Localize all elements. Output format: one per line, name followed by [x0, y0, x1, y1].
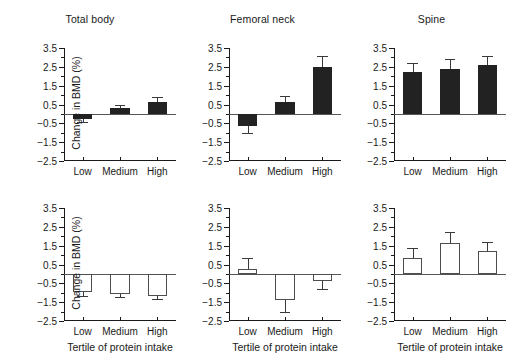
x-axis-tick: [83, 157, 84, 161]
y-axis-tick: [389, 67, 394, 68]
panel-femoral-neck-top: Femoral neck 3.52.51.50.5−0.5−1.5−2.5Low…: [180, 0, 345, 182]
y-axis-tick: [224, 48, 229, 49]
error-bar-cap-low: [242, 133, 252, 134]
error-bar-cap-medium: [115, 105, 125, 106]
error-bar-low: [248, 126, 249, 133]
y-axis-tick: [59, 105, 64, 106]
y-axis-tick: [389, 48, 394, 49]
plot-area: 3.52.51.50.5−0.5−1.5−2.5LowMediumHigh: [229, 48, 341, 161]
y-axis: [229, 48, 230, 161]
x-axis-tick: [285, 157, 286, 161]
x-axis-tick: [157, 317, 158, 321]
y-axis-tick-label: 3.5: [373, 203, 387, 214]
y-axis-tick: [224, 283, 229, 284]
error-bar-high: [322, 56, 323, 67]
plot-area: 3.52.51.50.5−0.5−1.5−2.5LowMediumHighTer…: [229, 208, 341, 321]
y-axis-tick-label: 2.5: [373, 221, 387, 232]
y-axis-minor-tick: [391, 312, 394, 313]
y-axis: [394, 208, 395, 321]
x-axis-tick: [487, 317, 488, 321]
y-axis-tick-label: −0.5: [367, 278, 387, 289]
y-axis-tick: [389, 302, 394, 303]
panel-spine-top: Spine 3.52.51.50.5−0.5−1.5−2.5LowMediumH…: [345, 0, 518, 182]
error-bar-cap-medium: [280, 312, 290, 313]
panel-total-body-bottom: 3.52.51.50.5−0.5−1.5−2.5LowMediumHighCha…: [0, 182, 180, 364]
bar-low: [403, 72, 422, 113]
x-axis-tick: [248, 157, 249, 161]
y-axis-tick: [389, 321, 394, 322]
x-axis-tick-label-high: High: [312, 326, 333, 337]
y-axis-minor-tick: [61, 114, 64, 115]
bar-high: [478, 251, 497, 274]
y-axis-tick-label: 0.5: [43, 259, 57, 270]
bar-medium: [440, 243, 459, 274]
error-bar-cap-high: [317, 56, 327, 57]
y-axis-tick: [389, 142, 394, 143]
y-axis-tick-label: 0.5: [208, 99, 222, 110]
y-axis-tick-label: 3.5: [208, 203, 222, 214]
y-axis-tick: [224, 86, 229, 87]
plot-area: 3.52.51.50.5−0.5−1.5−2.5LowMediumHigh: [394, 48, 506, 161]
panel-row-bottom: 3.52.51.50.5−0.5−1.5−2.5LowMediumHighCha…: [0, 182, 518, 364]
y-axis-tick: [59, 123, 64, 124]
y-axis-tick-label: −1.5: [367, 297, 387, 308]
x-axis-tick: [413, 157, 414, 161]
bar-high: [478, 65, 497, 114]
y-axis: [229, 208, 230, 321]
y-axis-tick-label: −0.5: [367, 118, 387, 129]
y-axis-tick: [389, 208, 394, 209]
x-axis-tick: [322, 317, 323, 321]
plot-area: 3.52.51.50.5−0.5−1.5−2.5LowMediumHighCha…: [64, 208, 176, 321]
bar-medium: [440, 69, 459, 114]
y-axis-tick-label: −1.5: [37, 137, 57, 148]
y-axis-minor-tick: [226, 255, 229, 256]
y-axis-tick-label: 1.5: [373, 80, 387, 91]
x-axis-tick: [487, 157, 488, 161]
y-axis-tick-label: −1.5: [367, 137, 387, 148]
y-axis-tick: [224, 321, 229, 322]
y-axis-minor-tick: [391, 114, 394, 115]
x-axis-tick-label-high: High: [147, 166, 168, 177]
y-axis-tick-label: −0.5: [202, 278, 222, 289]
bar-medium: [110, 108, 129, 114]
y-axis-minor-tick: [61, 95, 64, 96]
y-axis-minor-tick: [226, 114, 229, 115]
error-bar-cap-high: [482, 56, 492, 57]
bar-high: [148, 274, 167, 296]
y-axis-tick-label: 3.5: [43, 203, 57, 214]
y-axis-minor-tick: [391, 217, 394, 218]
y-axis-minor-tick: [391, 57, 394, 58]
x-axis-tick-label-medium: Medium: [267, 326, 303, 337]
y-axis-minor-tick: [226, 57, 229, 58]
y-axis-tick: [59, 265, 64, 266]
error-bar-medium: [450, 59, 451, 68]
y-axis-tick-label: −0.5: [37, 118, 57, 129]
x-axis-tick: [120, 317, 121, 321]
y-axis-tick-label: 2.5: [43, 61, 57, 72]
y-axis: [64, 48, 65, 161]
y-axis-minor-tick: [61, 312, 64, 313]
y-axis-tick-label: −2.5: [202, 156, 222, 167]
y-axis-minor-tick: [226, 217, 229, 218]
y-axis-tick: [224, 67, 229, 68]
bar-high: [313, 67, 332, 114]
error-bar-cap-low: [407, 63, 417, 64]
x-axis-tick-label-high: High: [477, 326, 498, 337]
x-axis-title: Tertile of protein intake: [380, 341, 518, 353]
y-axis-tick: [224, 208, 229, 209]
y-axis-tick-label: 1.5: [43, 80, 57, 91]
y-axis-title: Change in BMD (%): [70, 43, 82, 163]
bar-high: [313, 274, 332, 282]
error-bar-medium: [450, 232, 451, 242]
y-axis-tick: [59, 321, 64, 322]
error-bar-high: [487, 242, 488, 251]
y-axis-tick: [389, 161, 394, 162]
y-axis-minor-tick: [226, 133, 229, 134]
x-axis-tick-label-medium: Medium: [432, 166, 468, 177]
y-axis-tick: [389, 105, 394, 106]
x-axis-tick-label-high: High: [312, 166, 333, 177]
y-axis-minor-tick: [61, 133, 64, 134]
y-axis-tick: [59, 67, 64, 68]
x-axis-tick-label-medium: Medium: [102, 326, 138, 337]
y-axis-tick: [389, 86, 394, 87]
